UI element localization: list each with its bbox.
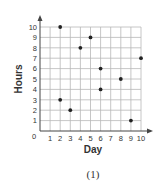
y-tick-label: 5 [33, 75, 37, 84]
x-tick-label: 5 [88, 134, 92, 143]
x-tick-label: 4 [78, 134, 82, 143]
x-tick-label: 3 [68, 134, 72, 143]
y-tick-label: 1 [33, 116, 37, 125]
data-point [89, 36, 93, 40]
x-tick-label: 9 [129, 134, 133, 143]
y-tick-label: 6 [33, 64, 37, 73]
origin-label: 0 [32, 132, 36, 141]
data-point [139, 56, 143, 60]
x-tick-label: 2 [58, 134, 62, 143]
data-point [79, 46, 83, 50]
y-tick-label: 10 [29, 23, 37, 32]
data-point [68, 108, 72, 112]
axes [38, 15, 154, 134]
grid-lines [40, 27, 141, 131]
data-point [99, 67, 103, 71]
y-tick-label: 8 [33, 44, 37, 53]
y-tick-label: 4 [33, 85, 37, 94]
y-axis-label: Hours [13, 64, 24, 93]
data-point [58, 25, 62, 29]
x-tick-labels: 123456789100 [32, 132, 145, 143]
x-axis-label: Day [84, 144, 103, 155]
x-tick-label: 7 [109, 134, 113, 143]
data-point [119, 77, 123, 81]
y-tick-label: 9 [33, 33, 37, 42]
x-tick-label: 10 [137, 134, 145, 143]
x-axis-arrow-icon [147, 129, 153, 134]
y-tick-label: 2 [33, 106, 37, 115]
figure-caption: (1) [87, 168, 100, 181]
y-axis-arrow-icon [38, 15, 43, 21]
y-tick-label: 7 [33, 54, 37, 63]
y-tick-label: 3 [33, 96, 37, 105]
data-point [58, 98, 62, 102]
scatter-chart: 123456789100 12345678910 Day Hours (1) [0, 0, 164, 191]
data-point [129, 119, 133, 123]
x-tick-label: 8 [119, 134, 123, 143]
y-tick-labels: 12345678910 [29, 23, 37, 126]
data-point [99, 88, 103, 92]
x-tick-label: 1 [48, 134, 52, 143]
x-tick-label: 6 [99, 134, 103, 143]
